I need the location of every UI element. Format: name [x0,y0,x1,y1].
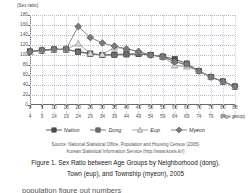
x-tick-label: 80|84 [220,105,225,120]
chart-legend: NationDongEupMyeon [0,126,251,134]
data-point-marker [96,128,100,132]
legend-item-myeon[interactable]: Myeon [171,126,205,134]
x-tick-label: 20|24 [76,105,81,120]
figure-container: (Sex ratio) (Age group) 0204060801001201… [0,0,251,193]
grid-line-vertical [235,15,236,105]
series-eup [27,40,239,89]
y-axis-title: (Sex ratio) [17,3,38,8]
x-tick-upper: 14 [51,114,56,120]
x-tick-upper: 39 [112,114,117,120]
x-tick-upper: 4 [29,114,32,120]
legend-marker-square-icon [46,126,62,134]
series-line [30,50,235,87]
caption-line-2: Town (eup), and Township (myeon), 2005 [10,169,241,180]
data-point-marker [112,52,117,57]
figure-caption: Figure 1. Sex Ratio between Age Groups b… [10,158,241,179]
x-tick-upper: 9 [41,114,44,120]
legend-marker-diamond-icon [171,126,187,134]
x-tick-upper: 34 [100,114,105,120]
x-tick-upper: 84 [220,114,225,120]
series-layer [30,15,235,105]
x-tick-upper: + [232,114,237,120]
legend-item-eup[interactable]: Eup [132,126,160,134]
x-tick-label: 65|69 [184,105,189,120]
x-tick-label: 55|59 [160,105,165,120]
series-line [30,27,235,87]
data-point-marker [99,39,106,46]
series-line [30,50,235,87]
x-tick-label: 75|79 [208,105,213,120]
source-line-2: Korean Statistical Information Service (… [0,148,251,155]
x-tick-label: 0|4 [29,105,32,120]
x-tick-label: 40|44 [124,105,129,120]
x-tick-label: 70|74 [196,105,201,120]
data-point-marker [176,127,182,133]
x-tick-label: 35|39 [112,105,117,120]
plot-area: 020406080100120140160180 0|45|910|1415|1… [30,15,235,105]
data-point-marker [75,40,82,46]
x-tick-label: 30|34 [100,105,105,120]
x-tick-upper: 54 [148,114,153,120]
source-note: Source: National Statistical Office, Pop… [0,141,251,155]
x-tick-upper: 49 [136,114,141,120]
series-myeon [26,23,238,90]
page-text-bleed: population figure out numbers [22,186,172,193]
legend-label: Nation [64,127,80,133]
series-nation [27,47,237,89]
x-tick-upper: 29 [88,114,93,120]
legend-label: Myeon [189,127,205,133]
legend-marker-triangle-icon [132,126,148,134]
caption-line-1: Figure 1. Sex Ratio between Age Groups b… [10,158,241,169]
series-dong [27,47,237,89]
legend-item-nation[interactable]: Nation [46,126,80,134]
x-tick-label: 5|9 [41,105,44,120]
x-tick-label: 25|29 [88,105,93,120]
legend-label: Eup [150,127,160,133]
x-tick-upper: 24 [76,114,81,120]
x-tick-label: 15|19 [64,105,69,120]
data-point-marker [52,128,56,132]
x-tick-upper: 19 [64,114,69,120]
sex-ratio-line-chart: (Sex ratio) (Age group) 0204060801001201… [0,0,251,128]
source-line-1: Source: National Statistical Office, Pop… [0,141,251,148]
x-tick-upper: 69 [184,114,189,120]
x-tick-upper: 59 [160,114,165,120]
legend-marker-square-icon [90,126,106,134]
data-point-marker [76,49,81,54]
x-tick-label: 85|+ [232,105,237,120]
x-tick-upper: 74 [196,114,201,120]
x-tick-label: 60|64 [172,105,177,120]
x-tick-label: 50|54 [148,105,153,120]
x-tick-upper: 44 [124,114,129,120]
legend-item-dong[interactable]: Dong [90,126,121,134]
legend-label: Dong [108,127,121,133]
x-tick-label: 45|49 [136,105,141,120]
x-tick-label: 10|14 [51,105,56,120]
x-tick-upper: 64 [172,114,177,120]
x-tick-upper: 79 [208,114,213,120]
